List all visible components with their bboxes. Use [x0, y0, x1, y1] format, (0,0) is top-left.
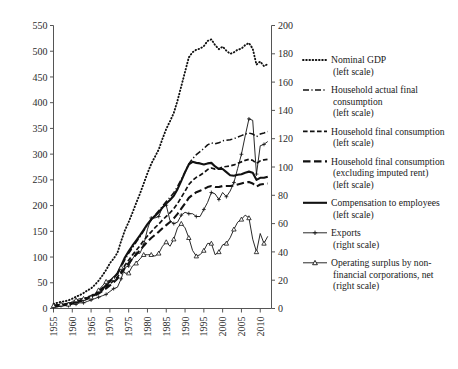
- legend-label-cont: (excluding imputed rent): [333, 167, 428, 179]
- left-axis-tick-label: 300: [33, 149, 48, 160]
- x-axis-tick-label: 1965: [86, 317, 97, 337]
- economic-indicators-line-chart: 050100150200250300350400450500550 020406…: [0, 0, 458, 369]
- x-axis-tick-label: 2010: [255, 317, 266, 337]
- legend-label: Household actual final: [331, 84, 418, 95]
- legend-label: Household final consumption: [331, 126, 445, 137]
- legend-scale-note: (right scale): [333, 280, 379, 292]
- left-axis-tick-label: 50: [38, 277, 48, 288]
- x-axis-tick-label: 1990: [180, 317, 191, 337]
- legend-scale-note: (left scale): [333, 179, 374, 191]
- right-axis-tick-label: 140: [278, 105, 293, 116]
- legend-scale-note: (left scale): [333, 107, 374, 119]
- x-axis-tick-label: 1960: [67, 317, 78, 337]
- left-axis-tick-label: 0: [43, 303, 48, 314]
- x-axis-tick-label: 1980: [142, 317, 153, 337]
- legend-label: Household final consumption: [331, 156, 445, 167]
- legend-label: Operating surplus by non-: [331, 257, 431, 268]
- x-axis-tick-label: 1995: [198, 317, 209, 337]
- right-axis-tick-label: 60: [278, 218, 288, 229]
- chart-background: [0, 0, 458, 369]
- x-axis-tick-label: 2000: [217, 317, 228, 337]
- right-axis-tick-label: 200: [278, 20, 293, 31]
- x-axis-tick-label: 2005: [236, 317, 247, 337]
- left-axis-tick-label: 250: [33, 174, 48, 185]
- x-axis-tick-label: 1975: [123, 317, 134, 337]
- left-axis-tick-label: 350: [33, 123, 48, 134]
- left-axis-tick-label: 450: [33, 72, 48, 83]
- right-axis-tick-label: 40: [278, 247, 288, 258]
- right-axis-tick-label: 180: [278, 48, 293, 59]
- right-axis-tick-label: 20: [278, 275, 288, 286]
- left-axis-tick-label: 150: [33, 226, 48, 237]
- left-axis-tick-label: 200: [33, 200, 48, 211]
- legend-scale-note: (left scale): [333, 209, 374, 221]
- right-axis-tick-label: 100: [278, 162, 293, 173]
- left-axis-tick-label: 100: [33, 252, 48, 263]
- x-axis-tick-label: 1955: [48, 317, 59, 337]
- legend-label: Compensation to employees: [331, 197, 440, 208]
- legend-label: Nominal GDP: [331, 54, 386, 65]
- right-axis-tick-label: 0: [278, 303, 283, 314]
- right-axis-tick-label: 160: [278, 77, 293, 88]
- left-axis-tick-label: 550: [33, 20, 48, 31]
- legend-scale-note: (right scale): [333, 239, 379, 251]
- right-axis-tick-label: 120: [278, 133, 293, 144]
- legend-label-cont: consumption: [333, 96, 383, 107]
- legend-label-cont: financial corporations, net: [333, 269, 434, 280]
- legend-label: Exports: [331, 227, 361, 238]
- left-axis-tick-label: 400: [33, 97, 48, 108]
- chart-figure: 050100150200250300350400450500550 020406…: [0, 0, 458, 369]
- x-axis-tick-label: 1970: [104, 317, 115, 337]
- right-axis-tick-label: 80: [278, 190, 288, 201]
- legend-scale-note: (left scale): [333, 66, 374, 78]
- left-axis-tick-label: 500: [33, 46, 48, 57]
- legend-scale-note: (left scale): [333, 137, 374, 149]
- x-axis-tick-label: 1985: [161, 317, 172, 337]
